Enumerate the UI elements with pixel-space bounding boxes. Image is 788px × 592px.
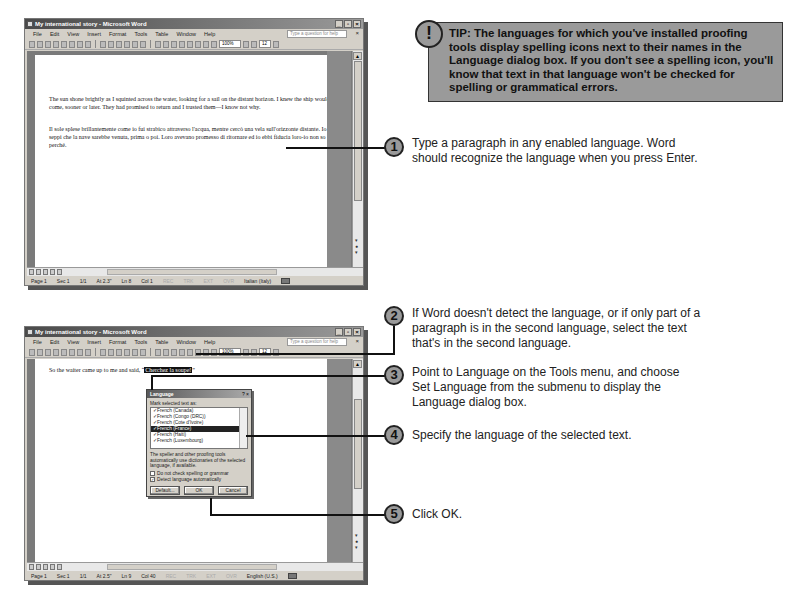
open-icon[interactable]	[37, 41, 43, 48]
normal-view-icon[interactable]	[29, 269, 34, 275]
menu-edit[interactable]: Edit	[50, 339, 59, 345]
help-icon[interactable]: ?	[242, 391, 245, 397]
undo-icon[interactable]	[132, 349, 138, 356]
redo-icon[interactable]	[140, 349, 146, 356]
default-button[interactable]: Default...	[150, 486, 180, 495]
menu-insert[interactable]: Insert	[87, 31, 101, 37]
zoom-select[interactable]: 100%	[219, 40, 241, 48]
bold-icon[interactable]	[273, 41, 279, 48]
help-icon[interactable]	[243, 41, 249, 48]
menu-table[interactable]: Table	[155, 31, 168, 37]
close-document-icon[interactable]: ×	[355, 338, 359, 344]
vertical-scrollbar[interactable]: ▲ ▾●▾	[352, 51, 363, 267]
format-painter-icon[interactable]	[124, 349, 130, 356]
hyperlink-icon[interactable]	[155, 41, 161, 48]
h-scroll-thumb[interactable]	[107, 269, 277, 275]
font-size-select[interactable]: 12	[259, 40, 271, 48]
new-icon[interactable]	[29, 349, 35, 356]
copy-icon[interactable]	[108, 349, 114, 356]
print-icon[interactable]	[69, 349, 75, 356]
drawing-icon[interactable]	[195, 41, 201, 48]
menu-format[interactable]: Format	[109, 339, 126, 345]
menu-view[interactable]: View	[67, 31, 79, 37]
status-ext[interactable]: EXT	[203, 278, 213, 284]
save-icon[interactable]	[45, 349, 51, 356]
document-map-icon[interactable]	[203, 41, 209, 48]
insert-excel-icon[interactable]	[179, 41, 185, 48]
normal-view-icon[interactable]	[29, 564, 34, 570]
minimize-button[interactable]: _	[335, 20, 343, 28]
status-rec[interactable]: REC	[163, 278, 174, 284]
reading-view-icon[interactable]	[57, 564, 62, 570]
menu-window[interactable]: Window	[176, 31, 196, 37]
web-view-icon[interactable]	[36, 564, 41, 570]
h-scroll-thumb[interactable]	[107, 564, 277, 570]
horizontal-scrollbar[interactable]	[27, 267, 363, 276]
list-scrollbar[interactable]	[239, 408, 247, 448]
save-icon[interactable]	[45, 41, 51, 48]
permission-icon[interactable]	[53, 349, 59, 356]
status-rec[interactable]: REC	[166, 573, 177, 579]
restore-button[interactable]: ▫	[344, 20, 352, 28]
scroll-thumb[interactable]	[354, 61, 362, 201]
spelling-icon[interactable]	[85, 349, 91, 356]
menu-format[interactable]: Format	[109, 31, 126, 37]
show-hide-icon[interactable]	[211, 41, 217, 48]
menu-window[interactable]: Window	[176, 339, 196, 345]
close-button[interactable]: ×	[353, 20, 361, 28]
print-preview-icon[interactable]	[77, 41, 83, 48]
menu-help[interactable]: Help	[204, 31, 215, 37]
status-language[interactable]: Italian (Italy)	[244, 278, 271, 284]
status-ovr[interactable]: OVR	[226, 573, 237, 579]
status-language[interactable]: English (U.S.)	[247, 573, 278, 579]
cut-icon[interactable]	[100, 349, 106, 356]
tables-borders-icon[interactable]	[163, 349, 169, 356]
reading-view-icon[interactable]	[57, 269, 62, 275]
outline-view-icon[interactable]	[50, 564, 55, 570]
horizontal-scrollbar[interactable]	[27, 562, 363, 571]
status-ext[interactable]: EXT	[206, 573, 216, 579]
format-painter-icon[interactable]	[124, 41, 130, 48]
language-item[interactable]: ✓French (Luxembourg)	[151, 438, 247, 444]
menu-tools[interactable]: Tools	[134, 339, 147, 345]
email-icon[interactable]	[61, 349, 67, 356]
menu-tools[interactable]: Tools	[134, 31, 147, 37]
menu-help[interactable]: Help	[204, 339, 215, 345]
checkbox-checked[interactable]: ✓	[150, 477, 155, 482]
close-button[interactable]: ×	[353, 328, 361, 336]
print-preview-icon[interactable]	[77, 349, 83, 356]
email-icon[interactable]	[61, 41, 67, 48]
document-page[interactable]: The sun shone brightly as I squinted acr…	[35, 55, 345, 267]
undo-icon[interactable]	[132, 41, 138, 48]
language-list[interactable]: ✓French (Canada) ✓French (Congo (DRC)) ✓…	[150, 407, 248, 449]
cancel-button[interactable]: Cancel	[218, 486, 248, 495]
ask-question-input[interactable]: Type a question for help	[287, 30, 347, 38]
spelling-status-icon[interactable]	[288, 573, 297, 579]
insert-table-icon[interactable]	[171, 349, 177, 356]
columns-icon[interactable]	[187, 349, 193, 356]
open-icon[interactable]	[37, 349, 43, 356]
paste-icon[interactable]	[116, 349, 122, 356]
ask-question-input[interactable]: Type a question for help	[287, 338, 347, 346]
permission-icon[interactable]	[53, 41, 59, 48]
insert-excel-icon[interactable]	[179, 349, 185, 356]
read-icon[interactable]	[251, 41, 257, 48]
print-view-icon[interactable]	[43, 564, 48, 570]
scroll-thumb[interactable]	[354, 399, 362, 489]
menu-table[interactable]: Table	[155, 339, 168, 345]
minimize-button[interactable]: _	[335, 328, 343, 336]
status-trk[interactable]: TRK	[183, 278, 193, 284]
paste-icon[interactable]	[116, 41, 122, 48]
menu-view[interactable]: View	[67, 339, 79, 345]
insert-table-icon[interactable]	[171, 41, 177, 48]
selected-text[interactable]: Cherchez la soupe!	[144, 367, 192, 373]
menu-edit[interactable]: Edit	[50, 31, 59, 37]
tables-borders-icon[interactable]	[163, 41, 169, 48]
copy-icon[interactable]	[108, 41, 114, 48]
print-icon[interactable]	[69, 41, 75, 48]
close-icon[interactable]: ×	[246, 391, 249, 397]
menu-insert[interactable]: Insert	[87, 339, 101, 345]
spelling-icon[interactable]	[85, 41, 91, 48]
status-trk[interactable]: TRK	[186, 573, 196, 579]
restore-button[interactable]: ▫	[344, 328, 352, 336]
